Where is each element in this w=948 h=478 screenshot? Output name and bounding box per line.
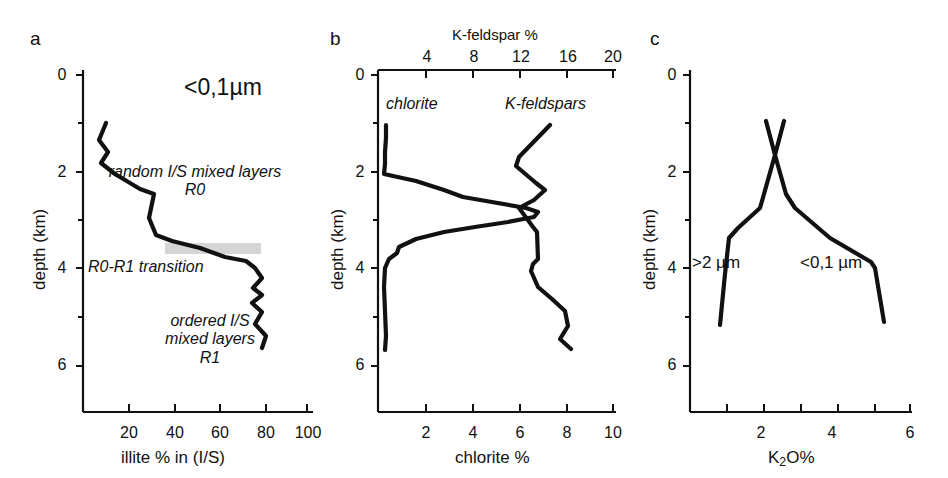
panel-b-x-ticks-bottom (426, 404, 613, 412)
panel-c-curve-lt01um (766, 121, 884, 322)
panel-c-x-ticks (727, 404, 910, 412)
figure-root: a <0,1µm depth (km) 0 2 4 6 20 40 60 80 … (0, 0, 948, 478)
panel-a-curve-illite (99, 123, 266, 348)
panel-b-curve-chlorite (384, 125, 538, 350)
panel-b-curve-kfeldspars (516, 125, 571, 349)
panel-a-x-ticks (129, 404, 307, 412)
panel-b-x-ticks-top (426, 70, 613, 78)
plot-canvas (0, 0, 948, 478)
